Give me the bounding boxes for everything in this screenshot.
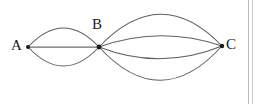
edge-b-c-arc-down-outer (99, 46, 222, 80)
vertex-label-a: A (11, 38, 22, 53)
scan-border-right-line (252, 0, 253, 104)
vertex-label-b: B (92, 17, 102, 32)
vertex-dot-a (26, 45, 30, 49)
edge-a-b-arc-down (28, 47, 99, 66)
edge-b-c-arc-up-inner (99, 36, 222, 47)
graph-canvas (0, 0, 258, 104)
scan-border-left-line (248, 0, 249, 104)
edge-b-c-arc-up-outer (99, 14, 222, 47)
vertex-label-c: C (226, 37, 236, 52)
vertex-dot-c (220, 44, 224, 48)
edge-a-b-arc-up (28, 28, 99, 47)
edge-b-c-arc-down-inner (99, 46, 222, 59)
multigraph-figure: A B C (0, 0, 258, 104)
vertex-dot-b (97, 45, 102, 50)
